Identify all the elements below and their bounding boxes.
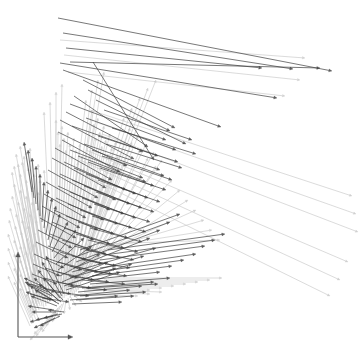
plot-canvas — [0, 0, 362, 358]
vector-field-plot — [0, 0, 362, 358]
plot-background — [0, 0, 362, 358]
